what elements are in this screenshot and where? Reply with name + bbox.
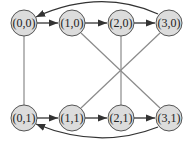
graph-diagram: (0,0) (1,0) (2,0) (3,0) (0,1) (1,1) (2,1… xyxy=(0,0,193,145)
graph-svg: (0,0) (1,0) (2,0) (3,0) (0,1) (1,1) (2,1… xyxy=(0,0,193,145)
node-label: (0,0) xyxy=(13,16,36,30)
node-2-0: (2,0) xyxy=(108,10,134,36)
node-label: (0,1) xyxy=(13,111,36,125)
node-label: (3,1) xyxy=(158,111,181,125)
edge-30-00-curve xyxy=(36,2,158,17)
undirected-edges xyxy=(24,33,160,108)
node-label: (1,0) xyxy=(61,16,84,30)
node-label: (2,1) xyxy=(110,111,133,125)
node-3-0: (3,0) xyxy=(156,10,182,36)
node-1-1: (1,1) xyxy=(59,105,85,131)
directed-edges-row1 xyxy=(36,118,158,138)
node-0-1: (0,1) xyxy=(11,105,37,131)
node-0-0: (0,0) xyxy=(11,10,37,36)
edge-31-01-curve xyxy=(36,124,158,138)
node-label: (2,0) xyxy=(110,16,133,30)
node-label: (1,1) xyxy=(61,111,84,125)
node-label: (3,0) xyxy=(158,16,181,30)
node-3-1: (3,1) xyxy=(156,105,182,131)
node-1-0: (1,0) xyxy=(59,10,85,36)
directed-edges-row0 xyxy=(36,2,158,23)
node-2-1: (2,1) xyxy=(108,105,134,131)
